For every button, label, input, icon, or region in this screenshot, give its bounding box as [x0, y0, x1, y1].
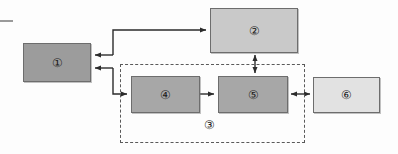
- node-box-2[interactable]: ②: [210, 8, 298, 53]
- node-box-1[interactable]: ①: [23, 43, 91, 82]
- connector-node1-to-node2: [95, 30, 206, 55]
- node-label-6: ⑥: [341, 89, 352, 101]
- node-box-4[interactable]: ④: [131, 76, 200, 113]
- node-label-5: ⑤: [248, 89, 259, 101]
- node-box-6[interactable]: ⑥: [313, 77, 380, 113]
- node-label-1: ①: [52, 57, 63, 69]
- subsystem-group-label: ③: [204, 118, 215, 133]
- diagram-canvas: ③ ① ② ④ ⑤ ⑥: [0, 0, 398, 154]
- node-label-2: ②: [249, 25, 260, 37]
- node-box-5[interactable]: ⑤: [218, 76, 288, 113]
- node-label-4: ④: [160, 89, 171, 101]
